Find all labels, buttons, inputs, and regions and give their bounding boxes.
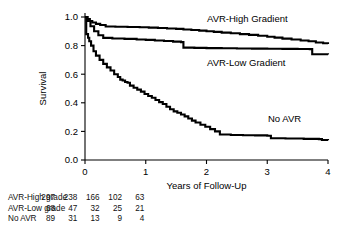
y-tick-label: 0.2 (65, 126, 78, 137)
risk-table-row: No AVR89311394 (0, 214, 339, 225)
curve-label-avr-low-gradient: AVR-Low Gradient (207, 57, 286, 68)
risk-count-cell: 21 (114, 204, 144, 215)
x-tick-label: 1 (143, 166, 148, 177)
risk-table-row: AVR-High grade29723816610263 (0, 193, 339, 204)
y-tick-label: 0.0 (65, 154, 78, 165)
x-tick-label: 0 (82, 166, 87, 177)
risk-count-cell: 63 (114, 193, 144, 204)
curve-label-no-avr: No AVR (268, 113, 301, 124)
risk-table-row: AVR-Low grade6847322521 (0, 204, 339, 215)
x-tick-label: 3 (265, 166, 270, 177)
x-tick-label: 4 (325, 166, 330, 177)
y-tick-label: 0.8 (65, 40, 78, 51)
y-axis-title: Survival (37, 72, 48, 106)
numbers-at-risk-table: AVR-High grade29723816610263AVR-Low grad… (0, 193, 339, 225)
risk-count-cell: 4 (114, 214, 144, 225)
survival-figure: 0.00.20.40.60.81.001234Years of Follow-U… (0, 0, 339, 243)
y-tick-label: 1.0 (65, 11, 78, 22)
curve-label-avr-high-gradient: AVR-High Gradient (207, 13, 288, 24)
y-tick-label: 0.4 (65, 97, 78, 108)
x-tick-label: 2 (204, 166, 209, 177)
y-tick-label: 0.6 (65, 69, 78, 80)
x-axis-title: Years of Follow-Up (167, 180, 247, 191)
